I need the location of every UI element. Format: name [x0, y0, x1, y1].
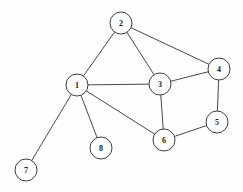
graph-node-label-1: 1 — [75, 81, 79, 90]
edge-layer — [32, 28, 219, 161]
graph-node-7[interactable]: 7 — [15, 159, 37, 181]
graph-edge-1-8 — [81, 95, 97, 137]
graph-node-2[interactable]: 2 — [110, 12, 132, 34]
graph-node-label-3: 3 — [158, 80, 162, 89]
graph-edge-5-6 — [174, 126, 206, 137]
graph-edge-3-4 — [171, 72, 209, 82]
graph-node-label-7: 7 — [24, 166, 28, 175]
graph-edge-3-6 — [161, 95, 163, 129]
graph-edge-1-2 — [83, 32, 114, 76]
graph-node-label-2: 2 — [119, 19, 123, 28]
graph-node-label-8: 8 — [99, 144, 103, 153]
graph-node-3[interactable]: 3 — [149, 73, 171, 95]
graph-node-label-5: 5 — [215, 118, 219, 127]
graph-node-label-4: 4 — [217, 65, 221, 74]
graph-node-5[interactable]: 5 — [206, 111, 228, 133]
node-layer: 12345678 — [15, 12, 230, 181]
graph-edge-4-5 — [217, 80, 218, 111]
graph-node-label-6: 6 — [162, 136, 166, 145]
graph-edge-2-3 — [127, 32, 154, 74]
graph-edge-1-6 — [86, 91, 154, 134]
graph-node-1[interactable]: 1 — [66, 74, 88, 96]
graph-node-4[interactable]: 4 — [208, 58, 230, 80]
graph-edge-1-3 — [88, 84, 149, 85]
graph-edge-2-4 — [131, 28, 209, 65]
graph-diagram: 12345678 — [0, 0, 243, 192]
graph-edge-1-7 — [32, 94, 72, 160]
graph-node-6[interactable]: 6 — [153, 129, 175, 151]
graph-node-8[interactable]: 8 — [90, 137, 112, 159]
